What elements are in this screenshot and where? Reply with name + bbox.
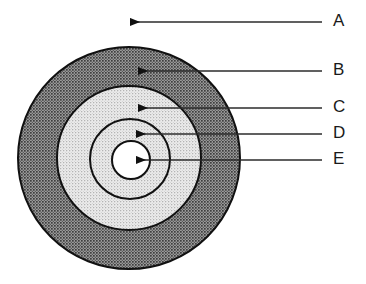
callout-label-a: A — [333, 11, 345, 30]
diagram-figure: A B C D E — [0, 0, 366, 284]
callout-label-d: D — [333, 123, 345, 142]
callout-label-b: B — [333, 60, 345, 79]
callout-labels-group: A B C D E — [333, 11, 345, 168]
callout-label-c: C — [333, 97, 345, 116]
concentric-circles-diagram: A B C D E — [0, 0, 366, 284]
callout-label-e: E — [333, 149, 345, 168]
